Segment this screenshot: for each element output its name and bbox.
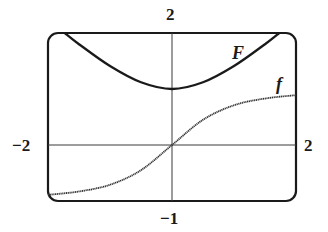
x-min-label: −2: [12, 137, 30, 154]
y-max-label: 2: [166, 6, 175, 23]
curve-F-label: F: [232, 44, 244, 62]
curve-f-label: f: [276, 75, 282, 93]
plot-area: [0, 0, 328, 232]
x-max-label: 2: [304, 137, 313, 154]
y-min-label: −1: [160, 210, 178, 227]
